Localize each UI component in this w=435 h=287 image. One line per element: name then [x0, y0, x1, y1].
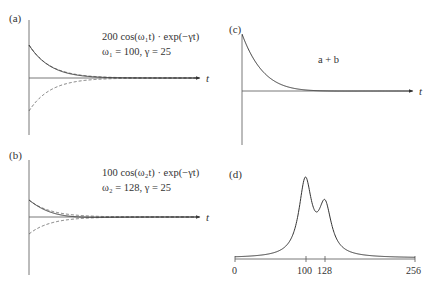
- panel-c-title: a + b: [318, 54, 339, 65]
- panel-c-label: (c): [229, 23, 242, 36]
- panel-b-lower-envelope: [29, 217, 199, 234]
- panel-d-spectrum: [235, 177, 415, 257]
- panel-d: (d) 0 100 128 256: [229, 168, 421, 276]
- panel-b-signal: [29, 200, 199, 217]
- panel-c: (c) t a + b: [229, 23, 423, 145]
- panel-b: (b) t 100 cos(ω₂t) · exp(−γt) ω₂ = 128, …: [9, 149, 210, 275]
- panel-a-equation: 200 cos(ω₁t) · exp(−γt): [102, 31, 200, 43]
- panel-a-label: (a): [9, 12, 22, 25]
- panel-b-t-label: t: [206, 211, 210, 223]
- panel-c-t-label: t: [419, 85, 423, 97]
- panel-a-lower-envelope: [29, 78, 199, 111]
- panel-d-label: (d): [229, 168, 242, 181]
- panel-d-tick-label-0: 0: [232, 265, 237, 276]
- panel-b-equation: 100 cos(ω₂t) · exp(−γt): [102, 167, 200, 179]
- panel-b-upper-envelope: [29, 200, 199, 217]
- panel-a-t-label: t: [206, 72, 210, 84]
- figure: (a) t 200 cos(ω₁t) · exp(−γt) ω₁ = 100, …: [0, 0, 435, 287]
- panel-a-params: ω₁ = 100, γ = 25: [102, 46, 171, 57]
- panel-a: (a) t 200 cos(ω₁t) · exp(−γt) ω₁ = 100, …: [9, 12, 210, 135]
- panel-b-label: (b): [9, 149, 22, 162]
- panel-b-params: ω₂ = 128, γ = 25: [102, 182, 171, 193]
- panel-d-tick-label-100: 100: [297, 265, 312, 276]
- panel-d-tick-label-256: 256: [406, 265, 421, 276]
- panel-d-tick-label-128: 128: [317, 265, 332, 276]
